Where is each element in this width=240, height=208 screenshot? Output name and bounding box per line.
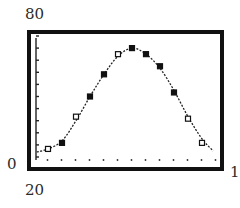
fitted-curve — [37, 48, 213, 152]
filled-square-marker — [130, 46, 135, 51]
filled-square-marker — [158, 64, 163, 69]
data-points — [46, 46, 205, 152]
open-square-marker — [116, 52, 121, 57]
filled-square-marker — [88, 94, 93, 99]
x-axis-dots — [47, 159, 217, 161]
open-square-marker — [200, 140, 205, 145]
y-axis-ticks — [36, 36, 39, 160]
open-square-marker — [74, 114, 79, 119]
filled-square-marker — [172, 90, 177, 95]
graph-screen — [0, 0, 240, 208]
open-square-marker — [46, 146, 51, 151]
filled-square-marker — [144, 52, 149, 57]
filled-square-marker — [60, 140, 65, 145]
filled-square-marker — [102, 72, 107, 77]
window-frame — [29, 32, 222, 169]
open-square-marker — [186, 116, 191, 121]
